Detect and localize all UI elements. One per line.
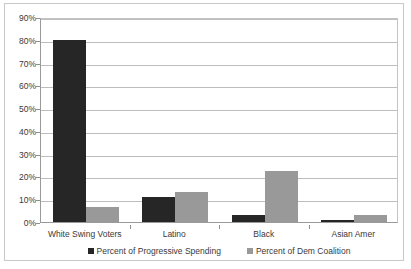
- x-axis-tick-label: Black: [219, 230, 309, 239]
- x-axis-tick-label: White Swing Voters: [40, 230, 130, 239]
- y-axis-tick-label: 20%: [19, 173, 36, 182]
- chart-container: 0%10%20%30%40%50%60%70%80%90% White Swin…: [4, 3, 404, 261]
- square-marker-dark: [88, 248, 94, 254]
- legend-label: Percent of Dem Coalition: [256, 247, 351, 256]
- y-axis-tick-label: 30%: [19, 151, 36, 160]
- bar-group: [232, 19, 298, 222]
- x-axis: White Swing VotersLatinoBlackAsian Amer: [40, 225, 398, 239]
- bar: [142, 197, 175, 222]
- y-axis-tick-mark: [36, 223, 40, 224]
- y-axis-tick-label: 10%: [19, 196, 36, 205]
- legend-label: Percent of Progressive Spending: [97, 247, 221, 256]
- x-axis-tick-mark: [309, 225, 310, 229]
- bar: [86, 207, 119, 222]
- y-axis: 0%10%20%30%40%50%60%70%80%90%: [5, 4, 36, 226]
- legend-entry[interactable]: Percent of Progressive Spending: [88, 247, 221, 256]
- bar: [53, 40, 86, 222]
- x-axis-tick-mark: [130, 225, 131, 229]
- bar-group: [142, 19, 208, 222]
- bar: [265, 171, 298, 222]
- x-axis-tick-label: Latino: [130, 230, 220, 239]
- bars-layer: [41, 19, 397, 222]
- bar: [354, 215, 387, 222]
- y-axis-tick-label: 80%: [19, 37, 36, 46]
- x-axis-tick-mark: [219, 225, 220, 229]
- y-axis-tick-label: 50%: [19, 105, 36, 114]
- y-axis-tick-label: 90%: [19, 14, 36, 23]
- bar: [232, 215, 265, 222]
- y-axis-tick-label: 70%: [19, 60, 36, 69]
- y-axis-tick-label: 0%: [24, 219, 36, 228]
- legend-entry[interactable]: Percent of Dem Coalition: [247, 247, 351, 256]
- y-axis-tick-label: 60%: [19, 82, 36, 91]
- bar: [321, 220, 354, 222]
- y-axis-tick-label: 40%: [19, 128, 36, 137]
- chart-legend: Percent of Progressive SpendingPercent o…: [40, 244, 398, 258]
- x-axis-tick-label: Asian Amer: [309, 230, 399, 239]
- plot-area: [40, 18, 398, 223]
- bar-group: [53, 19, 119, 222]
- bar: [175, 192, 208, 222]
- square-marker-light: [247, 248, 253, 254]
- bar-group: [321, 19, 387, 222]
